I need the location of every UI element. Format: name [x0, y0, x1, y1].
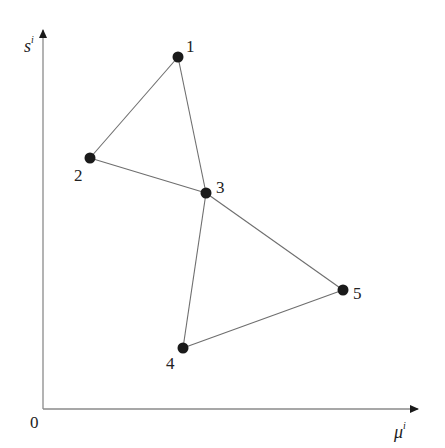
x-axis-label: μi: [393, 420, 406, 442]
edge-2-3: [90, 158, 206, 193]
origin-label: 0: [30, 413, 39, 432]
nodes: 12345: [74, 37, 362, 373]
node-4: [178, 343, 189, 354]
node-2: [85, 153, 96, 164]
edge-1-2: [90, 57, 178, 158]
edge-1-3: [178, 57, 206, 193]
node-label-2: 2: [74, 166, 83, 185]
y-axis-label: si: [24, 34, 34, 56]
x-axis-label-sup: i: [403, 420, 406, 431]
node-label-4: 4: [166, 354, 175, 373]
node-5: [338, 285, 349, 296]
x-axis-label-main: μ: [393, 422, 403, 442]
node-1: [173, 52, 184, 63]
edge-3-5: [206, 193, 343, 290]
edge-4-5: [183, 290, 343, 348]
y-axis-label-main: s: [24, 36, 31, 56]
node-label-3: 3: [216, 178, 225, 197]
edge-3-4: [183, 193, 206, 348]
node-3: [201, 188, 212, 199]
node-label-1: 1: [186, 37, 195, 56]
y-axis-label-sup: i: [31, 34, 34, 45]
node-label-5: 5: [353, 284, 362, 303]
edges: [90, 57, 343, 348]
graph-diagram: 12345 0 μi si: [0, 0, 445, 448]
